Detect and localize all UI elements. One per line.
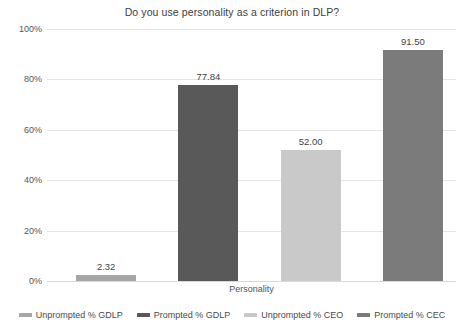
bar [76,275,136,281]
bar [383,50,443,281]
legend-swatch-icon [357,313,370,317]
legend-swatch-icon [137,313,150,317]
legend-item[interactable]: Prompted % CEC [357,310,445,320]
legend-item[interactable]: Prompted % GDLP [137,310,231,320]
y-axis-tick-labels: 0%20%40%60%80%100% [0,29,42,281]
legend-label: Unprompted % GDLP [36,310,123,320]
bars-layer: 2.3277.8452.0091.50 [47,29,456,281]
y-axis-tick-label: 100% [0,24,42,34]
legend-label: Unprompted % CEO [261,310,343,320]
legend-label: Prompted % GDLP [154,310,231,320]
legend-swatch-icon [19,313,32,317]
y-axis-tick-label: 40% [0,175,42,185]
chart-legend: Unprompted % GDLPPrompted % GDLPUnprompt… [0,310,464,320]
legend-item[interactable]: Unprompted % CEO [244,310,343,320]
y-axis-tick-label: 20% [0,226,42,236]
chart-container: Do you use personality as a criterion in… [0,0,464,332]
chart-title: Do you use personality as a criterion in… [0,6,464,18]
bar [281,150,341,281]
bar-value-label: 77.84 [164,71,252,82]
legend-label: Prompted % CEC [374,310,445,320]
y-axis-tick-label: 0% [0,276,42,286]
x-axis-title: Personality [47,284,456,294]
y-axis-tick-label: 80% [0,74,42,84]
bar [178,85,238,281]
legend-item[interactable]: Unprompted % GDLP [19,310,123,320]
bar-value-label: 91.50 [369,36,457,47]
y-axis-tick-label: 60% [0,125,42,135]
legend-swatch-icon [244,313,257,317]
gridline [47,281,456,282]
bar-value-label: 2.32 [62,261,150,272]
bar-value-label: 52.00 [267,136,355,147]
